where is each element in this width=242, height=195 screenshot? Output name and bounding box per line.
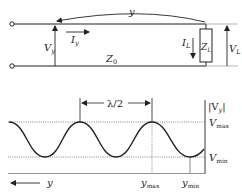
- svg-text:Vy: Vy: [44, 42, 55, 55]
- svg-text:Iy: Iy: [70, 34, 79, 47]
- svg-text:ymin: ymin: [181, 177, 199, 189]
- terminal-bottom: [10, 64, 14, 68]
- standing-wave-plot: λ/2 |Vy| Vmax Vmin y ymax ymin: [8, 98, 230, 189]
- svg-text:Vmax: Vmax: [209, 117, 230, 129]
- transmission-line-diagram: y Vy Iy Z0 IL ZL VL λ/2: [0, 0, 242, 195]
- circuit: y Vy Iy Z0 IL ZL VL: [10, 6, 241, 68]
- svg-text:Z0: Z0: [105, 53, 117, 66]
- svg-text:VL: VL: [229, 43, 241, 56]
- svg-text:ymax: ymax: [140, 177, 160, 189]
- half-wavelength-label: λ/2: [107, 98, 123, 109]
- x-axis-label: y: [46, 177, 53, 188]
- svg-text:Vmin: Vmin: [209, 152, 228, 164]
- distance-label: y: [128, 6, 135, 17]
- svg-text:|Vy|: |Vy|: [208, 101, 226, 114]
- terminal-top: [10, 22, 14, 26]
- standing-wave-curve: [9, 122, 204, 157]
- svg-text:IL: IL: [181, 37, 190, 50]
